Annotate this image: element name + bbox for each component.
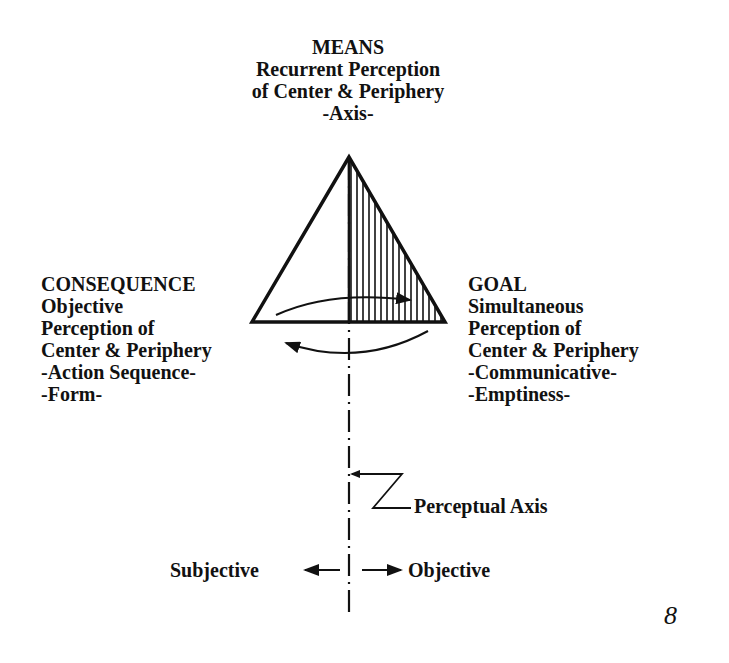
goal-line-3: Center & Periphery	[468, 339, 639, 361]
subjective-label: Subjective	[170, 559, 259, 581]
consequence-line-3: Center & Periphery	[41, 339, 212, 361]
consequence-line-2: Perception of	[41, 317, 212, 339]
consequence-label-block: CONSEQUENCE Objective Perception of Cent…	[41, 273, 212, 405]
goal-line-1: Simultaneous	[468, 295, 639, 317]
means-line-2: of Center & Periphery	[200, 80, 496, 102]
perceptual-axis-leader	[352, 474, 411, 508]
consequence-line-4: -Action Sequence-	[41, 361, 212, 383]
means-label-block: MEANS Recurrent Perception of Center & P…	[200, 36, 496, 124]
means-title: MEANS	[200, 36, 496, 58]
page-number: 8	[664, 601, 677, 631]
goal-line-4: -Communicative-	[468, 361, 639, 383]
goal-line-2: Perception of	[468, 317, 639, 339]
means-line-3: -Axis-	[200, 102, 496, 124]
goal-title: GOAL	[468, 273, 639, 295]
perceptual-axis-label: Perceptual Axis	[414, 495, 548, 517]
consequence-line-5: -Form-	[41, 383, 212, 405]
goal-line-5: -Emptiness-	[468, 383, 639, 405]
lower-arc-arrow	[286, 331, 428, 353]
consequence-title: CONSEQUENCE	[41, 273, 212, 295]
goal-label-block: GOAL Simultaneous Perception of Center &…	[468, 273, 639, 405]
means-line-1: Recurrent Perception	[200, 58, 496, 80]
objective-label: Objective	[408, 559, 490, 581]
consequence-line-1: Objective	[41, 295, 212, 317]
